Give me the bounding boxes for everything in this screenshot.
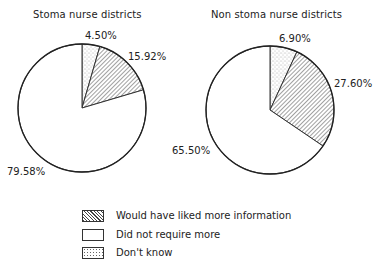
legend-item-not-require: Did not require more bbox=[82, 228, 220, 241]
label-nonstoma-notrequire: 65.50% bbox=[172, 145, 210, 156]
stipple-swatch-icon bbox=[82, 247, 104, 259]
legend-label: Did not require more bbox=[116, 229, 220, 240]
pie-stoma-districts bbox=[18, 44, 146, 172]
pie-non-stoma-districts bbox=[206, 46, 334, 174]
pie-charts-canvas bbox=[0, 0, 379, 267]
label-stoma-notrequire: 79.58% bbox=[7, 166, 45, 177]
chart-title-non-stoma: Non stoma nurse districts bbox=[211, 9, 342, 20]
label-nonstoma-dontknow: 6.90% bbox=[279, 33, 311, 44]
blank-swatch-icon bbox=[82, 229, 104, 241]
chart-title-stoma: Stoma nurse districts bbox=[33, 9, 142, 20]
legend-label: Don't know bbox=[116, 247, 172, 258]
legend-label: Would have liked more information bbox=[116, 210, 291, 221]
hatch-swatch-icon bbox=[82, 210, 104, 222]
legend-item-dont-know: Don't know bbox=[82, 246, 172, 259]
label-stoma-dontknow: 4.50% bbox=[85, 30, 117, 41]
label-stoma-wouldlike: 15.92% bbox=[128, 51, 166, 62]
legend-item-would-like: Would have liked more information bbox=[82, 209, 291, 222]
label-nonstoma-wouldlike: 27.60% bbox=[334, 78, 372, 89]
